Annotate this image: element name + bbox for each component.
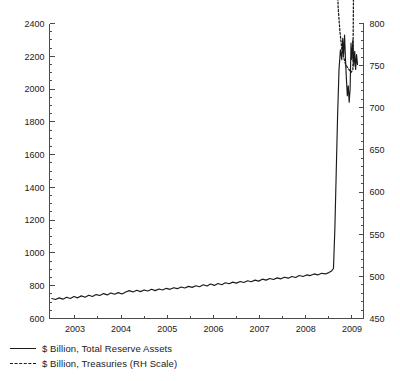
- svg-text:2000: 2000: [24, 84, 44, 94]
- svg-text:700: 700: [370, 103, 385, 113]
- chart-plot-area: 6008001000120014001600180020002200240045…: [0, 0, 400, 381]
- svg-text:800: 800: [370, 19, 385, 29]
- legend-item: $ Billion, Total Reserve Assets: [10, 341, 290, 356]
- legend-label: $ Billion, Treasuries (RH Scale): [42, 358, 177, 369]
- svg-text:1200: 1200: [24, 215, 44, 225]
- svg-text:2006: 2006: [203, 324, 223, 334]
- legend-key-solid-line-icon: [10, 348, 36, 350]
- series-total-reserve-assets: [52, 35, 358, 300]
- chart-container: 6008001000120014001600180020002200240045…: [0, 0, 400, 381]
- svg-text:1000: 1000: [24, 248, 44, 258]
- svg-text:750: 750: [370, 61, 385, 71]
- series-treasuries: [52, 0, 359, 72]
- svg-text:600: 600: [29, 314, 44, 324]
- svg-text:2005: 2005: [157, 324, 177, 334]
- svg-text:2400: 2400: [24, 19, 44, 29]
- legend-item: $ Billion, Treasuries (RH Scale): [10, 356, 290, 371]
- legend-label: $ Billion, Total Reserve Assets: [42, 343, 172, 354]
- svg-text:800: 800: [29, 281, 44, 291]
- svg-text:2008: 2008: [296, 324, 316, 334]
- svg-text:650: 650: [370, 145, 385, 155]
- svg-text:550: 550: [370, 230, 385, 240]
- svg-text:1400: 1400: [24, 183, 44, 193]
- svg-text:600: 600: [370, 187, 385, 197]
- svg-text:500: 500: [370, 272, 385, 282]
- svg-text:2007: 2007: [250, 324, 270, 334]
- legend-key-dashed-line-icon: [10, 363, 36, 365]
- svg-text:1800: 1800: [24, 117, 44, 127]
- svg-text:450: 450: [370, 314, 385, 324]
- svg-text:2004: 2004: [111, 324, 131, 334]
- svg-text:2200: 2200: [24, 52, 44, 62]
- chart-legend: $ Billion, Total Reserve Assets $ Billio…: [10, 341, 290, 371]
- svg-text:1600: 1600: [24, 150, 44, 160]
- svg-text:2003: 2003: [65, 324, 85, 334]
- svg-text:2009: 2009: [342, 324, 362, 334]
